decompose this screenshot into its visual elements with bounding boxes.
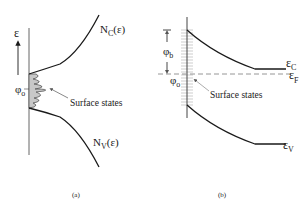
energy-axis-label: ε (14, 26, 19, 40)
surface-states-label-a: Surface states (70, 98, 123, 108)
surface-states-pointer-icon (51, 89, 68, 98)
surface-states-distribution (29, 74, 46, 108)
phi-o-label-b: φo (170, 74, 180, 89)
caption-b: (b) (218, 191, 227, 199)
nv-curve (29, 108, 99, 167)
surface-states-pointer-icon-b (195, 80, 209, 91)
ec-band (187, 30, 286, 69)
panel-a: ε φo Surface states NC(ε) NV(ε) (a) (14, 15, 126, 199)
nc-label: NC(ε) (100, 23, 126, 38)
phi-b-label: φb (163, 45, 173, 60)
nv-label: NV(ε) (93, 136, 119, 151)
surface-states-label-b: Surface states (210, 90, 263, 100)
ev-label: εV (283, 138, 294, 154)
panel-b: φb φo Surface states εC εF εV (b) (158, 17, 299, 199)
ef-label: εF (289, 68, 299, 85)
ev-band (187, 105, 286, 144)
band-diagram-figure: ε φo Surface states NC(ε) NV(ε) (a) (0, 0, 308, 205)
nc-curve (29, 15, 99, 74)
caption-a: (a) (72, 191, 80, 199)
phi-o-label: φo (15, 83, 25, 98)
